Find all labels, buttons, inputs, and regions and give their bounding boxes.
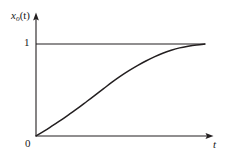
y-tick-label-one: 1 (24, 37, 30, 48)
step-response-figure: xo(t) t 1 0 (0, 0, 231, 160)
x-axis-label: t (213, 139, 216, 150)
step-response-curve (36, 44, 205, 136)
plot-canvas (0, 0, 231, 160)
y-axis-subscript: o (16, 14, 20, 23)
y-axis-arg: (t) (20, 9, 30, 21)
y-axis-label: xo(t) (11, 10, 30, 21)
origin-label-zero: 0 (25, 138, 31, 149)
